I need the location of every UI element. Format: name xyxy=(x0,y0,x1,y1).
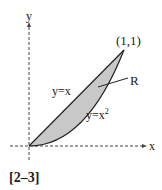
region-diagram: y x (1,1) R y=x y=x2 xyxy=(0,0,162,190)
line-label: y=x xyxy=(52,84,71,98)
region-label: R xyxy=(130,73,139,88)
parabola-label-base: y=x xyxy=(86,108,105,122)
figure-caption: [2–3] xyxy=(9,170,39,186)
x-axis-label: x xyxy=(149,139,155,153)
x-axis-arrow-icon xyxy=(142,144,147,148)
parabola-label: y=x2 xyxy=(86,107,109,122)
y-axis-label: y xyxy=(26,9,32,23)
curve-y-equals-x xyxy=(29,50,124,146)
parabola-label-exponent: 2 xyxy=(105,107,109,116)
point-label: (1,1) xyxy=(116,33,141,48)
